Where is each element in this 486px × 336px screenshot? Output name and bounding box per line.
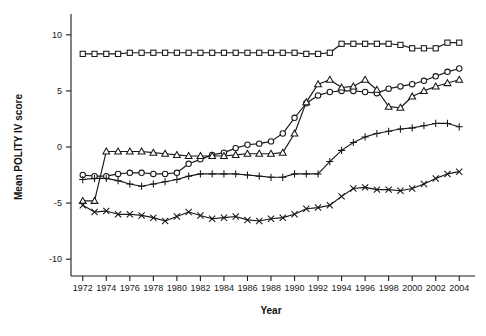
data-point-plus (385, 128, 392, 135)
data-point-plus (114, 177, 121, 184)
data-point-plus (138, 183, 145, 190)
data-point-circle (315, 93, 320, 98)
x-axis-tick-label: 1986 (237, 283, 257, 293)
polity-line-chart: 1050-5-101972197419761978198019821984198… (0, 0, 486, 336)
data-point-square (433, 46, 438, 51)
data-point-square (221, 50, 226, 55)
data-point-plus (420, 122, 427, 129)
data-point-square (421, 46, 426, 51)
data-point-square (315, 51, 320, 56)
data-point-plus (397, 125, 404, 132)
data-point-circle (421, 78, 426, 83)
y-axis-tick-label: 10 (52, 30, 62, 40)
data-point-plus (232, 170, 239, 177)
data-point-circle (386, 86, 391, 91)
data-point-plus (220, 170, 227, 177)
data-point-circle (433, 74, 438, 79)
data-point-square (80, 51, 85, 56)
data-point-circle (409, 81, 414, 86)
data-point-square (139, 50, 144, 55)
data-point-triangle (326, 76, 333, 82)
data-point-triangle (279, 149, 286, 155)
data-point-plus (432, 120, 439, 127)
data-point-plus (409, 124, 416, 131)
data-point-plus (350, 139, 357, 146)
x-axis-tick-label: 1994 (332, 283, 352, 293)
data-point-cross (421, 181, 427, 187)
data-point-plus (373, 130, 380, 137)
data-point-square (257, 50, 262, 55)
data-point-plus (444, 120, 451, 127)
data-point-plus (126, 180, 133, 187)
data-point-plus (162, 178, 169, 185)
data-point-plus (197, 170, 204, 177)
data-point-plus (362, 133, 369, 140)
y-axis-tick-label: 0 (57, 142, 62, 152)
x-axis-tick-label: 1988 (261, 283, 281, 293)
data-point-square (445, 40, 450, 45)
data-point-circle (398, 84, 403, 89)
data-point-cross (197, 212, 203, 218)
x-axis-tick-label: 1984 (214, 283, 234, 293)
x-axis-tick-label: 1974 (96, 283, 116, 293)
data-point-square (457, 40, 462, 45)
data-point-circle (162, 171, 167, 176)
data-point-cross (291, 211, 297, 217)
data-point-square (363, 41, 368, 46)
x-axis-tick-label: 1992 (308, 283, 328, 293)
data-point-square (386, 41, 391, 46)
data-point-plus (244, 171, 251, 178)
x-axis-tick-label: 2004 (449, 283, 469, 293)
data-point-square (398, 42, 403, 47)
data-point-square (92, 51, 97, 56)
x-axis-tick-label: 1976 (120, 283, 140, 293)
data-point-plus (256, 173, 263, 180)
data-point-circle (268, 139, 273, 144)
data-point-square (351, 41, 356, 46)
x-axis-tick-label: 1990 (285, 283, 305, 293)
data-point-plus (291, 170, 298, 177)
y-axis-tick-label: 5 (57, 86, 62, 96)
y-axis-title: Mean POLITY IV score (13, 94, 24, 200)
data-point-plus (456, 123, 463, 130)
data-point-square (268, 50, 273, 55)
data-point-plus (303, 170, 310, 177)
data-point-square (327, 50, 332, 55)
x-axis-tick-label: 1980 (167, 283, 187, 293)
data-point-circle (186, 161, 191, 166)
data-point-triangle (350, 83, 357, 89)
data-point-plus (209, 170, 216, 177)
x-axis-tick-label: 2002 (426, 283, 446, 293)
series-squares (80, 40, 462, 56)
data-point-square (104, 51, 109, 56)
x-axis-title: Year (260, 305, 281, 316)
data-point-circle (139, 170, 144, 175)
data-point-plus (150, 180, 157, 187)
data-point-square (374, 41, 379, 46)
data-point-square (233, 50, 238, 55)
data-point-plus (185, 173, 192, 180)
data-point-triangle (291, 130, 298, 136)
data-point-square (304, 51, 309, 56)
data-point-square (292, 50, 297, 55)
x-axis-tick-label: 1998 (379, 283, 399, 293)
data-point-square (280, 50, 285, 55)
data-point-plus (279, 174, 286, 181)
x-axis-tick-label: 1996 (355, 283, 375, 293)
data-point-square (410, 46, 415, 51)
x-axis-tick-label: 1978 (143, 283, 163, 293)
data-point-circle (445, 69, 450, 74)
x-axis-tick-label: 2000 (402, 283, 422, 293)
data-point-circle (292, 115, 297, 120)
x-axis-tick-label: 1982 (190, 283, 210, 293)
data-point-cross (174, 213, 180, 219)
data-point-circle (327, 89, 332, 94)
data-point-square (151, 50, 156, 55)
data-point-plus (267, 174, 274, 181)
data-point-square (186, 50, 191, 55)
data-point-cross (338, 193, 344, 199)
chart-container: 1050-5-101972197419761978198019821984198… (0, 0, 486, 336)
data-point-square (174, 50, 179, 55)
data-point-circle (174, 170, 179, 175)
data-point-square (115, 51, 120, 56)
